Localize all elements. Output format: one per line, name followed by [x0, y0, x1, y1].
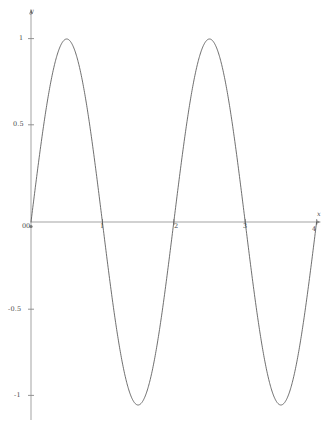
y-tick-label-neg1: -1: [14, 392, 21, 399]
x-tick-label-2: 2: [174, 223, 178, 230]
plot-graphics: [0, 0, 333, 426]
x-axis-label: x: [317, 211, 321, 218]
x-tick-label-1: 1: [100, 223, 104, 230]
y-tick-label-0_5: 0.5: [13, 121, 24, 128]
x-tick-label-3: 3: [243, 223, 247, 230]
plot-canvas: 1 0.5 0 -0.5 -1 0 1 2 3 4 y x: [0, 0, 333, 426]
y-axis-label: y: [30, 8, 34, 15]
y-tick-label-1: 1: [19, 35, 23, 42]
y-tick-label-neg0_5: -0.5: [8, 306, 21, 313]
x-tick-label-4: 4: [312, 226, 316, 233]
x-tick-label-0: 0: [26, 223, 30, 230]
